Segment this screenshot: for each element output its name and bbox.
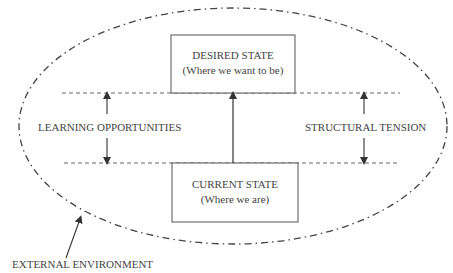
desired-state-subtitle: (Where we want to be) xyxy=(171,63,295,78)
current-state-subtitle: (Where we are) xyxy=(172,192,298,207)
current-state-title: CURRENT STATE xyxy=(172,177,298,192)
diagram-canvas xyxy=(0,0,453,273)
desired-state-text: DESIRED STATE (Where we want to be) xyxy=(171,48,295,78)
desired-state-title: DESIRED STATE xyxy=(171,48,295,63)
environment-pointer-arrow xyxy=(66,219,80,258)
external-environment-label: EXTERNAL ENVIRONMENT xyxy=(12,258,153,270)
learning-opportunities-label: LEARNING OPPORTUNITIES xyxy=(38,121,181,133)
current-state-text: CURRENT STATE (Where we are) xyxy=(172,177,298,207)
structural-tension-label: STRUCTURAL TENSION xyxy=(305,121,426,133)
